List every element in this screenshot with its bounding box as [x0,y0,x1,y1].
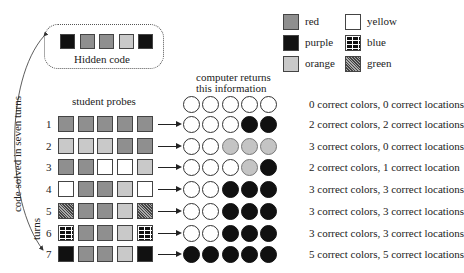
arrow-icon [158,189,178,190]
feedback-text: 5 correct colors, 5 correct locations [309,248,464,260]
feedback-peg-white [222,96,239,113]
probe-peg-red [97,116,113,132]
feedback-peg-white [202,203,219,220]
legend-swatch-red [283,14,299,30]
feedback-peg-white [241,96,258,113]
probe-peg-red [58,159,74,175]
feedback-peg-white [202,181,219,198]
probe-peg-red [78,225,94,241]
arrow-icon [158,124,178,125]
probe-peg-yellow [117,159,133,175]
feedback-header-line2: this information [196,82,267,94]
feedback-peg-white [183,203,200,220]
feedback-peg-white [183,159,200,176]
probe-peg-red [78,116,94,132]
feedback-peg-white [202,225,219,242]
turn-number: 6 [46,227,52,239]
feedback-peg-black [241,181,258,198]
arrow-head-icon [176,143,182,149]
feedback-text: 2 correct colors, 1 correct location [309,161,460,173]
feedback-peg-gray [241,159,258,176]
header-feedback-text: 0 correct colors, 0 correct locations [309,98,464,110]
feedback-peg-black [222,181,239,198]
feedback-peg-white [260,96,277,113]
feedback-peg-white [222,116,239,133]
probe-peg-orange [137,159,153,175]
feedback-peg-gray [222,138,239,155]
legend-label-red: red [305,15,319,27]
probe-peg-red [78,203,94,219]
arrow-icon [158,167,178,168]
probe-peg-red [58,116,74,132]
probe-peg-orange [78,138,94,154]
probe-peg-purple [58,246,74,262]
feedback-peg-white [183,138,200,155]
probe-peg-orange [117,203,133,219]
feedback-peg-black [222,203,239,220]
feedback-peg-white [222,159,239,176]
feedback-text: 3 correct colors, 3 correct locations [309,183,464,195]
probe-peg-red [97,225,113,241]
feedback-text: 3 correct colors, 3 correct locations [309,227,464,239]
feedback-text: 3 correct colors, 3 correct locations [309,205,464,217]
probes-header: student probes [72,95,136,107]
probe-peg-orange [58,138,74,154]
feedback-peg-white [183,225,200,242]
legend-label-green: green [367,57,391,69]
legend-label-orange: orange [305,57,335,69]
hidden-code-peg-red [99,34,114,49]
probe-peg-yellow [58,181,74,197]
arrow-head-icon [176,186,182,192]
legend-label-blue: blue [367,36,386,48]
feedback-peg-white [183,116,200,133]
probe-peg-blue [58,225,74,241]
arrow-icon [158,211,178,212]
probe-peg-yellow [97,159,113,175]
probe-peg-red [117,116,133,132]
feedback-text: 3 correct colors, 0 correct locations [309,140,464,152]
feedback-peg-white [202,138,219,155]
probe-peg-yellow [137,181,153,197]
arrow-head-icon [176,251,182,257]
arrow-icon [158,233,178,234]
feedback-peg-black [260,116,277,133]
legend-swatch-yellow [345,14,361,30]
feedback-peg-black [260,159,277,176]
feedback-peg-black [241,246,258,263]
feedback-peg-gray [260,138,277,155]
probe-peg-red [97,203,113,219]
arrow-icon [158,146,178,147]
turn-number: 7 [46,248,52,260]
legend-label-yellow: yellow [367,15,397,27]
legend-swatch-purple [283,35,299,51]
arrow-head-icon [176,164,182,170]
feedback-peg-black [222,246,239,263]
arrow-head-icon [176,208,182,214]
probe-peg-orange [117,225,133,241]
feedback-peg-white [183,96,200,113]
probe-peg-red [97,181,113,197]
probe-peg-orange [97,138,113,154]
legend-label-purple: purple [305,36,333,48]
feedback-peg-black [260,246,277,263]
hidden-code-peg-red [80,34,95,49]
turn-number: 4 [46,183,52,195]
feedback-peg-white [202,116,219,133]
hidden-code-peg-purple [138,34,153,49]
probe-peg-green [58,203,74,219]
turns-label: turns [30,218,42,240]
arrow-head-icon [176,230,182,236]
feedback-peg-black [183,246,200,263]
arrow-icon [158,254,178,255]
hidden-code-peg-purple [60,34,75,49]
probe-peg-green [137,203,153,219]
turn-number: 3 [46,161,52,173]
probe-peg-purple [137,246,153,262]
feedback-peg-white [202,159,219,176]
probe-peg-red [78,246,94,262]
feedback-peg-gray [241,138,258,155]
arrow-head-icon [176,121,182,127]
hidden-code-peg-orange [119,34,134,49]
turn-number: 5 [46,205,52,217]
turn-number: 1 [46,118,52,130]
